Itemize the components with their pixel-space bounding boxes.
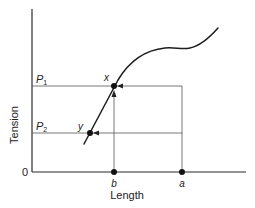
- point-x-dot: [111, 83, 117, 89]
- point-a-label: a: [179, 178, 185, 189]
- arrow-left-icon: [93, 131, 99, 136]
- point-b-dot: [111, 169, 117, 175]
- x-axis-title: Length: [110, 189, 144, 201]
- point-y-dot: [87, 130, 93, 136]
- point-y-label: y: [77, 121, 84, 132]
- length-tension-diagram: P1 P2 x y b a 0 Length Tension: [0, 0, 255, 208]
- origin-label: 0: [22, 166, 28, 178]
- y-axis-title: Tension: [8, 106, 20, 144]
- point-b-label: b: [111, 178, 117, 189]
- point-x-label: x: [103, 72, 110, 83]
- point-a-dot: [179, 169, 185, 175]
- p2-label: P2: [36, 120, 47, 133]
- arrow-left-icon: [117, 84, 123, 89]
- p1-label: P1: [36, 73, 47, 86]
